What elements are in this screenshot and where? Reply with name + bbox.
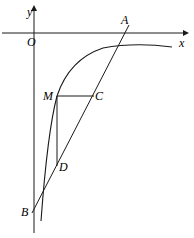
point-label-b: B: [21, 206, 28, 218]
line-AB: [32, 25, 129, 213]
origin-label: O: [27, 36, 36, 48]
point-label-c: C: [95, 90, 103, 102]
y-axis-label: y: [27, 6, 32, 18]
x-axis-label: x: [179, 37, 184, 49]
logarithmic-curve: [41, 45, 172, 221]
point-label-m: M: [43, 90, 53, 102]
geometry-figure: O y x A B C D M: [0, 0, 194, 238]
point-label-d: D: [59, 161, 68, 173]
point-label-a: A: [121, 14, 128, 26]
